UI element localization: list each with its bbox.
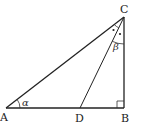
beta-label: β	[112, 41, 119, 52]
alpha-label: α	[22, 97, 29, 108]
point-label-b: B	[121, 112, 129, 125]
triangle-diagram: α β C A D B	[0, 0, 142, 130]
right-angle-mark	[117, 101, 124, 108]
point-label-c: C	[120, 3, 128, 16]
point-label-d: D	[75, 112, 84, 125]
segment-ca	[6, 17, 124, 108]
segment-cd	[80, 17, 124, 108]
point-label-a: A	[0, 111, 9, 124]
angle-mark-dot	[119, 33, 121, 35]
angle-arc-c	[114, 25, 119, 28]
angle-mark-dot	[112, 29, 114, 31]
alpha-arc	[17, 99, 20, 108]
